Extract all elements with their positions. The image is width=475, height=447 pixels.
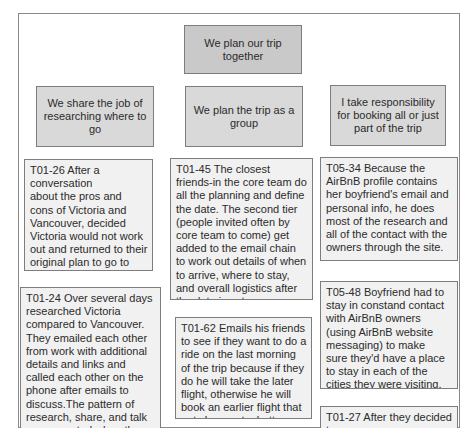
root-node: We plan our trip together [184, 25, 302, 74]
note-t05-48: T05-48 Boyfriend had to stay in constand… [320, 281, 458, 389]
note-t01-26: T01-26 After a conversation about the pr… [24, 159, 153, 271]
category-research-label: We share the job of researching where to… [40, 97, 150, 136]
note-t01-27: T01-27 After they decided to [320, 406, 458, 428]
note-t01-62: T01-62 Emails his friends to see if they… [175, 317, 312, 419]
note-t05-34: T05-34 Because the AirBnB profile contai… [320, 157, 458, 261]
root-node-label: We plan our trip together [189, 37, 297, 63]
category-booking-label: I take responsibility for booking all or… [334, 96, 442, 135]
category-group-plan: We plan the trip as a group [185, 86, 303, 147]
category-booking: I take responsibility for booking all or… [330, 85, 446, 146]
note-t01-24: T01-24 Over several days researched Vict… [20, 287, 161, 428]
note-t01-45: T01-45 The closest friends-in the core t… [170, 158, 313, 300]
category-research: We share the job of researching where to… [36, 86, 154, 147]
category-group-plan-label: We plan the trip as a group [189, 104, 299, 130]
